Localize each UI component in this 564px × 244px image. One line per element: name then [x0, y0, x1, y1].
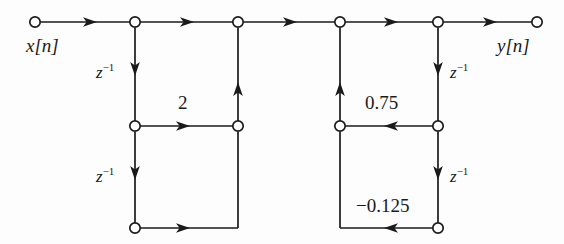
output-signal-label: y[n] — [497, 36, 530, 55]
delay-label-left-upper: z−1 — [96, 62, 114, 81]
delay-label-left-lower: z−1 — [96, 166, 114, 185]
node-mid-left-2 — [233, 121, 243, 131]
section1-arrowheads — [130, 62, 243, 233]
node-mid-right-1 — [335, 121, 345, 131]
node-input — [30, 17, 40, 27]
node-bottom-right — [433, 223, 443, 233]
node-top-3 — [335, 17, 345, 27]
node-circles — [30, 17, 542, 233]
node-output — [532, 17, 542, 27]
coefficient-label-neg0125: −0.125 — [356, 196, 409, 215]
node-top-2 — [233, 17, 243, 27]
coefficient-label-075: 0.75 — [365, 93, 398, 112]
input-signal-label: x[n] — [26, 36, 59, 55]
coefficient-label-2: 2 — [178, 93, 188, 112]
node-top-4 — [433, 17, 443, 27]
node-bottom-left — [130, 223, 140, 233]
section1-branches — [135, 28, 238, 228]
signal-flow-graph-diagram: x[n] y[n] z−1 z−1 z−1 z−1 2 0.75 −0.125 — [0, 0, 564, 244]
delay-label-right-lower: z−1 — [450, 166, 468, 185]
node-top-1 — [130, 17, 140, 27]
node-mid-left-1 — [130, 121, 140, 131]
node-mid-right-2 — [433, 121, 443, 131]
delay-label-right-upper: z−1 — [450, 62, 468, 81]
flow-graph-canvas — [0, 0, 564, 244]
